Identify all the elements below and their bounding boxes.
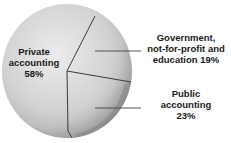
label-private-accounting: Private accounting 58%	[6, 46, 62, 79]
label-public-accounting: Public accounting 23%	[147, 88, 225, 121]
label-value: 23%	[147, 110, 225, 121]
label-line: Private	[6, 46, 62, 57]
label-line: Government,	[141, 32, 231, 43]
label-line: not-for-profit and	[141, 43, 231, 54]
label-line: accounting	[6, 57, 62, 68]
label-value: education 19%	[141, 54, 231, 65]
label-value: 58%	[6, 68, 62, 79]
label-government: Government, not-for-profit and education…	[141, 32, 231, 65]
label-line: accounting	[147, 99, 225, 110]
label-line: Public	[147, 88, 225, 99]
